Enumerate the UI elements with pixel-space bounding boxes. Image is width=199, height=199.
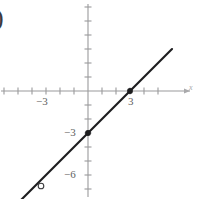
plotted-line — [1, 49, 172, 199]
x-tick-label-neg3: −3 — [36, 96, 48, 107]
data-point-x-intercept — [127, 88, 133, 94]
corner-parenthesis-mark: ) — [0, 5, 4, 31]
x-axis-label: x — [189, 84, 193, 92]
data-point-y-intercept — [85, 130, 91, 136]
coordinate-plane-svg — [0, 0, 199, 199]
x-tick-label-3: 3 — [128, 96, 134, 107]
y-tick-label-neg6: −6 — [64, 169, 76, 180]
data-point-open-endpoint — [38, 183, 44, 189]
y-tick-label-neg3: −3 — [64, 127, 76, 138]
graph-figure: ) −3 3 −3 −6 x — [0, 0, 199, 199]
